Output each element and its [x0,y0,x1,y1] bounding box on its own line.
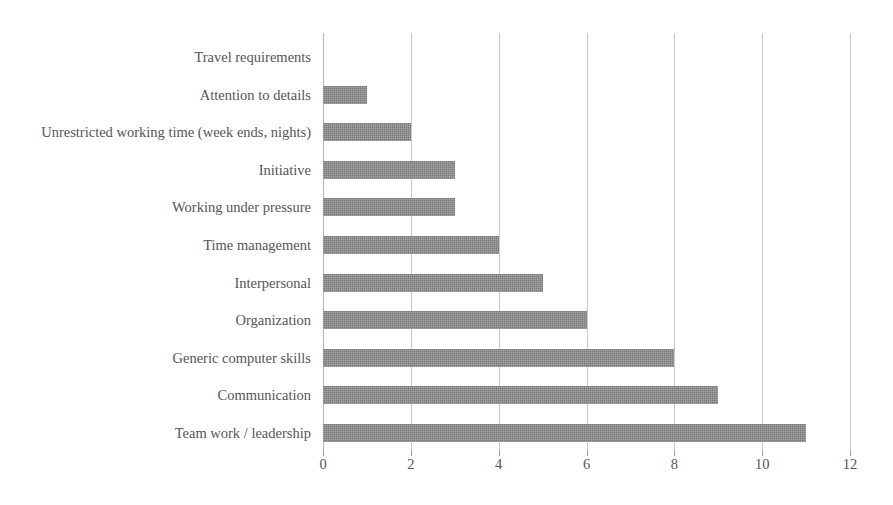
bar [323,424,806,442]
category-label: Time management [0,237,318,253]
bar-row [323,198,850,216]
category-label: Unrestricted working time (week ends, ni… [0,124,318,140]
bar-row [323,349,850,367]
x-tick-label: 10 [755,455,770,473]
bar-row [323,86,850,104]
horizontal-bar-chart: Travel requirementsAttention to detailsU… [0,0,893,505]
x-axis-tick-labels: 024681012 [0,455,893,485]
category-label: Attention to details [0,87,318,103]
bar [323,161,455,179]
x-tick-label: 4 [495,455,502,473]
bar [323,311,587,329]
bar-row [323,123,850,141]
bar-row [323,424,850,442]
x-tick-label: 8 [671,455,678,473]
x-tick-label: 0 [319,455,326,473]
x-tick-label: 12 [843,455,858,473]
category-label: Travel requirements [0,49,318,65]
category-label: Organization [0,312,318,328]
bar-row [323,386,850,404]
plot-area [323,33,850,451]
x-tick-label: 6 [583,455,590,473]
bar [323,274,543,292]
bar-row [323,161,850,179]
category-label: Initiative [0,162,318,178]
bar [323,386,718,404]
bar [323,198,455,216]
gridline-12 [850,33,851,451]
category-axis-labels: Travel requirementsAttention to detailsU… [0,0,318,505]
bar [323,236,499,254]
bar [323,86,367,104]
category-label: Communication [0,387,318,403]
category-label: Team work / leadership [0,425,318,441]
bar-row [323,311,850,329]
x-tick-label: 2 [407,455,414,473]
bar-row [323,48,850,66]
bars-layer [323,33,850,451]
category-label: Generic computer skills [0,350,318,366]
category-label: Working under pressure [0,199,318,215]
bar-row [323,236,850,254]
bar [323,123,411,141]
category-label: Interpersonal [0,275,318,291]
bar [323,349,674,367]
bar-row [323,274,850,292]
